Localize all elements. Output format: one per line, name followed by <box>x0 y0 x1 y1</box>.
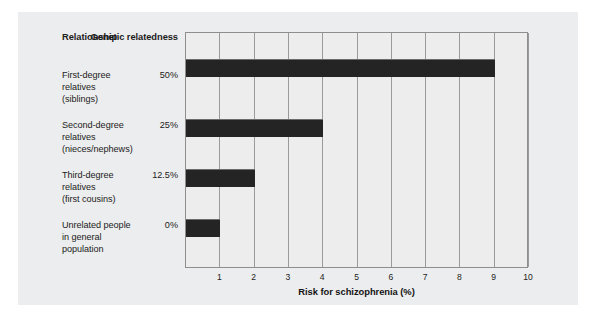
row-pct-second-degree: 25% <box>128 120 178 132</box>
column-header-genetic-relatedness: Genetic relatedness <box>80 32 178 43</box>
row-label-line2: in general <box>62 232 152 244</box>
table-row: Second-degree relatives (nieces/nephews)… <box>18 120 185 168</box>
row-label-line2: relatives <box>62 132 152 144</box>
x-tick-8: 8 <box>448 272 470 282</box>
bar-3 <box>186 169 255 187</box>
row-label-line3: (siblings) <box>62 94 152 106</box>
x-tick-5: 5 <box>346 272 368 282</box>
x-axis-title: Risk for schizophrenia (%) <box>185 286 528 297</box>
x-tick-2: 2 <box>243 272 265 282</box>
relationship-table: Relationship Genetic relatedness First-d… <box>18 12 185 305</box>
bar-4 <box>186 219 220 237</box>
table-row: Third-degree relatives (first cousins) 1… <box>18 170 185 218</box>
row-label-line3: population <box>62 244 152 256</box>
row-label-line2: relatives <box>62 182 152 194</box>
column-header-genetic-line2: relatedness <box>127 32 178 42</box>
row-label-line2: relatives <box>62 82 152 94</box>
x-tick-3: 3 <box>277 272 299 282</box>
x-tick-1: 1 <box>208 272 230 282</box>
row-pct-unrelated: 0% <box>128 220 178 232</box>
x-tick-7: 7 <box>414 272 436 282</box>
plot-area <box>185 32 528 268</box>
x-tick-10: 10 <box>517 272 539 282</box>
bar-1 <box>186 59 495 77</box>
row-pct-third-degree: 12.5% <box>128 170 178 182</box>
row-label-line3: (first cousins) <box>62 194 152 206</box>
x-tick-4: 4 <box>311 272 333 282</box>
table-row: First-degree relatives (siblings) 50% <box>18 70 185 118</box>
table-row: Unrelated people in general population 0… <box>18 220 185 268</box>
column-header-genetic-line1: Genetic <box>91 32 125 42</box>
gridline-10 <box>528 33 529 267</box>
x-tick-6: 6 <box>380 272 402 282</box>
row-pct-first-degree: 50% <box>128 70 178 82</box>
bar-2 <box>186 119 323 137</box>
x-tick-9: 9 <box>483 272 505 282</box>
row-label-line3: (nieces/nephews) <box>62 144 152 156</box>
chart-figure: Relationship Genetic relatedness First-d… <box>0 0 595 318</box>
